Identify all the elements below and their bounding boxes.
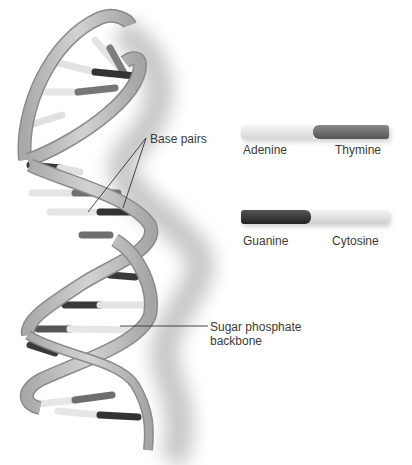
legend-bar-adenine-thymine [241,125,389,139]
cytosine-swatch [301,210,389,224]
guanine-label: Guanine [243,234,288,248]
base-pairs-label: Base pairs [150,132,207,146]
dna-diagram: Base pairs Sugar phosphate backbone Aden… [0,0,412,465]
dna-helix-illustration [0,0,412,465]
adenine-swatch [241,125,313,139]
guanine-swatch [241,210,311,224]
backbone-label-line2: backbone [210,334,262,348]
adenine-label: Adenine [243,143,287,157]
backbone-label-line1: Sugar phosphate [210,320,301,334]
legend-bar-guanine-cytosine [241,210,389,224]
cytosine-label: Cytosine [332,234,379,248]
thymine-label: Thymine [335,143,381,157]
thymine-swatch [313,125,389,139]
